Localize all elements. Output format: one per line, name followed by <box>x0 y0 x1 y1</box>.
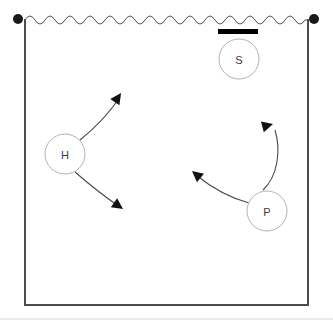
movement-arrow-h-upper <box>80 90 126 140</box>
movement-arrow-p-up-shaft <box>263 130 278 190</box>
player-node-p-circle[interactable] <box>247 191 287 231</box>
movement-arrow-p-up-head <box>261 119 274 132</box>
movement-arrow-h-lower-head <box>111 198 126 213</box>
player-node-h-circle[interactable] <box>45 134 85 174</box>
net-post-right <box>309 14 319 24</box>
movement-arrow-h-upper-shaft <box>80 97 120 140</box>
movement-arrow-h-lower <box>75 172 126 214</box>
player-node-s-circle[interactable] <box>219 39 259 79</box>
movement-arrow-p-left <box>188 167 249 203</box>
movement-arrow-h-upper-head <box>110 90 125 105</box>
net-wave <box>25 16 308 24</box>
movement-arrow-p-left-shaft <box>196 175 249 203</box>
movement-arrow-h-lower-shaft <box>75 172 120 207</box>
net-group <box>13 14 319 24</box>
player-node-s[interactable]: S <box>219 39 259 79</box>
court-diagram: HSP <box>0 0 333 325</box>
player-node-layer: HSP <box>45 39 287 231</box>
player-node-p[interactable]: P <box>247 191 287 231</box>
player-node-h[interactable]: H <box>45 134 85 174</box>
movement-arrow-layer <box>75 90 278 214</box>
blocked-zone-bar <box>218 29 258 34</box>
net-post-left <box>13 14 23 24</box>
movement-arrow-p-up <box>261 119 278 190</box>
diagram-canvas: HSP <box>0 0 333 325</box>
